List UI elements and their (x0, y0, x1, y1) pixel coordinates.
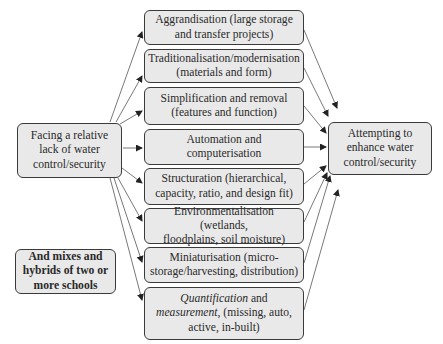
school-line: Traditionalisation/modernisation (148, 52, 300, 66)
quantification-term: Quantification (180, 292, 248, 305)
school-miniaturisation: Miniaturisation (micro- storage/harvesti… (144, 247, 304, 283)
hybrid-line: more schools (23, 279, 108, 293)
target-line: enhance water (344, 141, 417, 155)
school-line: Simplification and removal (161, 92, 288, 106)
school-line: capacity, ratio, and design fit) (155, 187, 293, 201)
school-line: Structuration (hierarchical, (155, 172, 293, 186)
target-box: Attempting to enhance water control/secu… (328, 122, 432, 175)
school-line: active, in-built) (156, 321, 292, 335)
school-simplification: Simplification and removal (features and… (144, 87, 304, 125)
school-line: (materials and form) (148, 66, 300, 80)
school-structuration: Structuration (hierarchical, capacity, r… (144, 168, 304, 205)
school-line: Environmentalisation (wetlands, (149, 205, 299, 233)
school-line: Automation and (186, 133, 261, 147)
school-line: measurement, (missing, auto, (156, 306, 292, 320)
school-traditionalisation: Traditionalisation/modernisation (materi… (144, 49, 304, 83)
school-environmentalisation: Environmentalisation (wetlands, floodpla… (144, 208, 304, 244)
school-line: Miniaturisation (micro- (150, 251, 298, 265)
hybrid-note-box: And mixes and hybrids of two or more sch… (15, 249, 116, 294)
target-line: control/security (344, 156, 417, 170)
school-text: and (248, 292, 268, 305)
source-box: Facing a relative lack of water control/… (17, 123, 122, 178)
school-line: storage/harvesting, distribution) (150, 265, 298, 279)
school-line: (features and function) (161, 106, 288, 120)
school-line: computerisation (186, 147, 261, 161)
target-line: Attempting to (344, 127, 417, 141)
school-line: floodplains, soil moisture) (149, 233, 299, 247)
hybrid-line: hybrids of two or (23, 264, 108, 278)
school-aggrandisation: Aggrandisation (large storage and transf… (144, 10, 304, 45)
school-quantification: Quantification and measurement, (missing… (144, 287, 304, 340)
school-text: , (missing, auto, (217, 306, 291, 319)
school-line: Aggrandisation (large storage (155, 13, 293, 27)
source-line: control/security (31, 158, 108, 172)
measurement-term: measurement (156, 306, 217, 319)
source-line: lack of water (31, 143, 108, 157)
source-line: Facing a relative (31, 129, 108, 143)
hybrid-line: And mixes and (23, 250, 108, 264)
school-line: and transfer projects) (155, 28, 293, 42)
school-line: Quantification and (156, 292, 292, 306)
school-automation: Automation and computerisation (144, 129, 304, 165)
